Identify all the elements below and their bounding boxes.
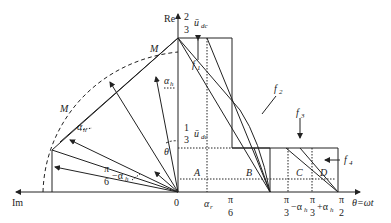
level-mid-den: 3 — [184, 134, 189, 145]
tick-pi6-den: 6 — [228, 207, 233, 218]
f4-sub: 4 — [349, 159, 353, 167]
pi6-minus-sub: h — [125, 175, 129, 183]
tick-pi3p-den: 3 — [310, 207, 315, 218]
tick-pi2-num: π — [339, 194, 344, 205]
im-axis-label: Im — [12, 197, 23, 208]
tick-pi6-num: π — [228, 194, 233, 205]
tick-pi3p-sub: h — [330, 206, 334, 214]
tick-pi3m-suffix: −α — [291, 201, 303, 212]
f2-label: f — [274, 83, 278, 94]
alpha-h-lower-sub: h — [83, 126, 87, 134]
theta-label: θ — [164, 146, 169, 157]
tick-pi3p-num: π — [310, 194, 315, 205]
level-top-den: 3 — [184, 24, 189, 35]
f4-label: f — [344, 154, 348, 165]
circle-trajectory — [43, 52, 178, 192]
level-mid-var: ū — [194, 128, 199, 139]
tick-pi3m-sub: h — [304, 206, 308, 214]
region-d-label: D — [319, 167, 328, 178]
tick-pi2-den: 2 — [339, 207, 344, 218]
pi6-minus-suffix: −α — [112, 170, 124, 181]
f2-sub: 2 — [279, 88, 283, 96]
tick-pi3m-den: 3 — [284, 207, 289, 218]
f1-sub: 1 — [197, 64, 201, 72]
origin-label: 0 — [174, 197, 179, 208]
tick-alpha-r-sub: r — [210, 203, 213, 211]
vector-diagram — [43, 38, 178, 192]
level-top-num: 2 — [184, 11, 189, 22]
region-c-label: C — [296, 167, 303, 178]
f2-line — [207, 38, 270, 192]
re-axis-label: Re — [164, 13, 176, 24]
pi6-minus-den: 6 — [104, 176, 109, 187]
region-a-label: A — [193, 167, 201, 178]
level-top-sub: dc — [201, 22, 209, 30]
pi6-minus-num: π — [104, 163, 109, 174]
m-upper-label: M — [149, 43, 159, 54]
alpha-h-upper-sub: h — [170, 80, 174, 88]
m-lower-label: M — [59, 103, 69, 114]
tick-pi3m-num: π — [284, 194, 289, 205]
f3-label: f — [296, 107, 300, 118]
hexagon-overmodulation-diagram: Re Im 0 θ=ωt 2 3 ū dc 1 3 ū dc A B C D α… — [0, 0, 391, 223]
level-mid-num: 1 — [184, 122, 189, 133]
region-b-label: B — [246, 167, 252, 178]
theta-axis-label: θ=ωt — [352, 197, 374, 208]
tick-pi3p-suffix: +α — [317, 201, 329, 212]
level-mid-sub: dc — [201, 133, 209, 141]
f1-label: f — [192, 59, 196, 70]
waveforms — [178, 38, 340, 192]
labels: Re Im 0 θ=ωt 2 3 ū dc 1 3 ū dc A B C D α… — [12, 11, 374, 218]
level-top-var: ū — [194, 17, 199, 28]
f3-sub: 3 — [300, 112, 305, 120]
